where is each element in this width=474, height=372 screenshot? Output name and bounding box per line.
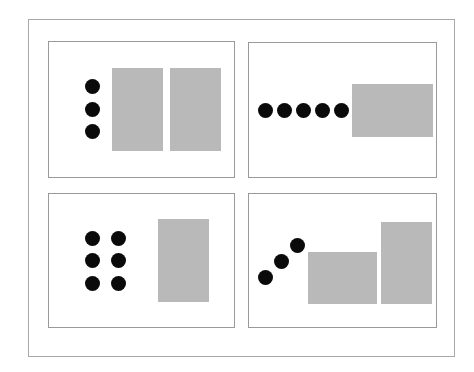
black-dot (85, 231, 100, 246)
black-dot (277, 103, 292, 118)
black-dot (111, 253, 126, 268)
black-dot (85, 276, 100, 291)
black-dot (258, 103, 273, 118)
black-dot (85, 253, 100, 268)
black-dot (258, 270, 273, 285)
black-dot (85, 79, 100, 94)
black-dot (111, 231, 126, 246)
gray-rectangle (381, 222, 432, 304)
gray-rectangle (170, 68, 221, 151)
gray-rectangle (308, 252, 377, 304)
gray-rectangle (352, 84, 433, 137)
black-dot (315, 103, 330, 118)
black-dot (290, 238, 305, 253)
black-dot (334, 103, 349, 118)
gray-rectangle (112, 68, 163, 151)
black-dot (111, 276, 126, 291)
black-dot (85, 124, 100, 139)
gray-rectangle (158, 219, 209, 302)
black-dot (296, 103, 311, 118)
black-dot (274, 254, 289, 269)
black-dot (85, 102, 100, 117)
